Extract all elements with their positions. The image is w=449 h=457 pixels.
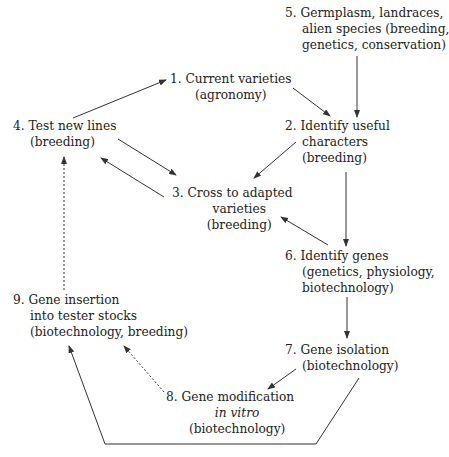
node-4-test-new-lines: 4. Test new lines (breeding)	[13, 118, 116, 150]
node-label: Gene insertion	[29, 293, 120, 307]
node-7-gene-isolation: 7. Gene isolation (biotechnology)	[285, 342, 398, 374]
node-number: 6.	[285, 248, 297, 264]
node-3-cross-to-adapted-varieties: 3. Cross to adapted varieties (breeding)	[172, 185, 293, 233]
node-number: 7.	[285, 342, 297, 358]
edge-8-to-9	[124, 346, 164, 392]
node-label: Cross to adapted	[188, 186, 293, 200]
node-label: in vitro	[166, 405, 294, 421]
node-number: 4.	[13, 118, 25, 134]
node-5-germplasm: 5. Germplasm, landraces, alien species (…	[285, 5, 449, 53]
node-label: Identify genes	[301, 249, 389, 263]
node-label: (agronomy)	[170, 87, 292, 103]
node-label: biotechnology)	[285, 280, 435, 296]
node-label: (biotechnology, breeding)	[13, 324, 188, 340]
edge-4-to-3	[118, 139, 176, 175]
node-number: 5.	[285, 5, 297, 21]
edge-3-to-4	[101, 158, 164, 197]
node-label: Germplasm, landraces,	[301, 6, 444, 20]
node-label: genetics, conservation)	[285, 37, 449, 53]
node-label: Gene isolation	[301, 343, 390, 357]
edge-4-to-1	[73, 80, 166, 118]
node-2-identify-useful-characters: 2. Identify useful characters (breeding)	[285, 118, 390, 166]
node-6-identify-genes: 6. Identify genes (genetics, physiology,…	[285, 248, 435, 296]
node-number: 3.	[172, 185, 184, 201]
node-label: (breeding)	[285, 150, 390, 166]
node-number: 8.	[166, 389, 178, 405]
node-label: Gene modification	[182, 390, 295, 404]
node-1-current-varieties: 1. Current varieties (agronomy)	[170, 71, 292, 103]
node-label: alien species (breeding,	[285, 21, 449, 37]
node-number: 1.	[170, 71, 182, 87]
node-number: 2.	[285, 118, 297, 134]
node-label: (breeding)	[13, 134, 116, 150]
node-label: (biotechnology)	[166, 421, 294, 437]
node-label: Test new lines	[29, 119, 117, 133]
node-label: characters	[285, 134, 390, 150]
node-label: into tester stocks	[13, 308, 188, 324]
node-label: (biotechnology)	[285, 358, 398, 374]
node-label: Current varieties	[186, 72, 292, 86]
node-label: (genetics, physiology,	[285, 264, 435, 280]
node-9-gene-insertion: 9. Gene insertion into tester stocks (bi…	[13, 292, 188, 340]
node-label: Identify useful	[301, 119, 390, 133]
node-8-gene-modification: 8. Gene modification in vitro (biotechno…	[166, 389, 294, 437]
edge-1-to-2	[293, 88, 330, 116]
node-label: varieties	[172, 201, 293, 217]
node-number: 9.	[13, 292, 25, 308]
node-label: (breeding)	[172, 217, 293, 233]
